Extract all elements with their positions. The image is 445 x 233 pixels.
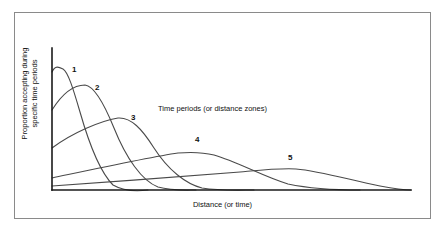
curve-2 bbox=[52, 85, 196, 190]
curve-3 bbox=[52, 118, 254, 190]
curve-label-3: 3 bbox=[131, 114, 135, 122]
x-axis-label: Distance (or time) bbox=[0, 200, 445, 209]
figure-container: 1 2 3 4 5 Time periods (or distance zone… bbox=[0, 0, 445, 233]
y-axis-label-line-2: specific time periods bbox=[29, 24, 39, 164]
curve-label-1: 1 bbox=[72, 66, 76, 74]
curve-5 bbox=[52, 169, 411, 190]
y-axis-label: Proportion accepting during specific tim… bbox=[20, 24, 39, 164]
plot-area bbox=[0, 0, 445, 233]
curve-label-4: 4 bbox=[195, 136, 199, 144]
y-axis-label-line-1: Proportion accepting during bbox=[20, 24, 30, 164]
curve-1 bbox=[52, 67, 148, 191]
chart-annotation: Time periods (or distance zones) bbox=[158, 104, 267, 113]
curve-label-2: 2 bbox=[95, 84, 99, 92]
curve-label-5: 5 bbox=[288, 154, 292, 162]
